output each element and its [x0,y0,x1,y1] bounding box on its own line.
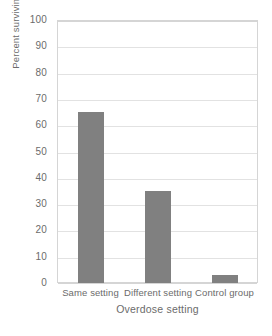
y-axis-tick-label: 60 [1,120,47,130]
x-axis-tick-labels: Same settingDifferent settingControl gro… [57,287,258,301]
gridline [58,47,257,48]
y-axis-tick-label: 90 [1,41,47,51]
gridline [58,179,257,180]
gridline [58,231,257,232]
gridlines [58,21,257,282]
y-axis-tick-label: 40 [1,173,47,183]
gridline [58,126,257,127]
x-axis-tick-label: Same setting [57,287,124,299]
x-axis-tick-label: Different setting [124,287,191,299]
y-axis-tick-label: 70 [1,94,47,104]
y-axis-tick-label: 30 [1,199,47,209]
gridline [58,258,257,259]
y-axis-tick-label: 100 [1,15,47,25]
y-axis-tick-label: 20 [1,225,47,235]
y-axis-tick-label: 10 [1,252,47,262]
gridline [58,100,257,101]
gridline [58,21,257,22]
y-axis-tick-label: 0 [1,278,47,288]
y-axis-tick-labels: 1009080706050403020100 [0,20,52,283]
gridline [58,153,257,154]
bar-chart: Percent surviving 1009080706050403020100… [0,0,272,336]
y-axis-tick-label: 50 [1,147,47,157]
gridline [58,74,257,75]
x-axis-tick-label: Control group [191,287,258,299]
gridline [58,205,257,206]
gridline [58,283,257,284]
y-axis-tick-label: 80 [1,68,47,78]
x-axis-title: Overdose setting [57,303,258,315]
plot-area [57,20,258,283]
